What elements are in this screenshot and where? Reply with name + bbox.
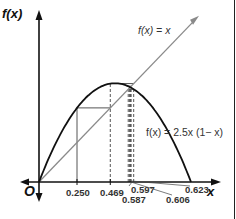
identity-line-group	[39, 16, 199, 182]
x-tick-label: 0.606	[166, 194, 190, 205]
origin-label: O	[24, 183, 35, 199]
x-tick-label: 0.469	[100, 187, 124, 198]
y-axis-label: f(x)	[2, 6, 22, 21]
cobweb-chart: 0.2500.4690.5970.5870.6060.623 f(x) x O …	[0, 0, 236, 219]
y-axis-arrow-icon	[36, 10, 43, 20]
axes	[20, 10, 221, 202]
x-tick-labels: 0.2500.4690.5970.5870.6060.623	[66, 179, 209, 205]
x-tick-label: 0.250	[66, 187, 90, 198]
identity-line	[39, 21, 194, 182]
x-tick-label: 0.587	[122, 194, 146, 205]
y-axis-down-arrow-icon	[36, 193, 43, 202]
x-axis-label: x	[206, 184, 215, 199]
logistic-curve-label: f(x) = 2.5x (1− x)	[146, 126, 223, 138]
frame-border	[234, 0, 235, 219]
identity-line-label: f(x) = x	[138, 24, 171, 36]
